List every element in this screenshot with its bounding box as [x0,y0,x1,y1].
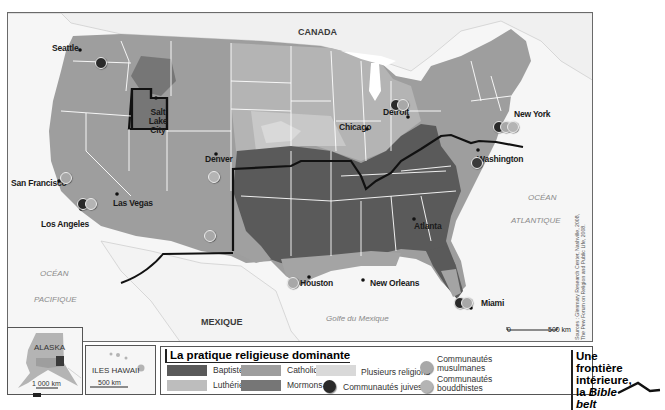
scale-zero: 0 [507,326,511,333]
dot-communautes-musulmanes [420,361,433,374]
legend-label-mormons: Mormons [287,380,322,390]
us-religion-map: CANADA MEXIQUE OCÉAN PACIFIQUE OCÉAN ATL… [7,12,593,342]
legend-title: La pratique religieuse dominante [165,349,350,363]
hawaii-label: ILES HAWAII [92,366,139,375]
legend-label-communautes-bouddhistes: Communautés bouddhistes [437,375,492,393]
swatch-baptistes [167,365,207,376]
bible-belt-line-icon [616,379,665,395]
swatch-lutheriens [167,380,207,391]
legend-label-communautes-musulmanes: Communautés musulmanes [437,355,492,373]
swatch-catholiques [241,365,281,376]
swatch-plusieurs-religions [316,365,356,376]
scale-bar [8,13,593,342]
alaska-label: ALASKA [34,343,65,352]
sources-text: Sources : Glenmary Research Center, Nash… [574,214,586,340]
alaska-inset: ALASKA 1 000 km [7,327,83,395]
alaska-scale: 1 000 km [32,380,61,387]
alaska-marker [33,393,41,397]
legend-label-communautes-juives: Communautés juives [343,382,422,392]
swatch-mormons [241,380,281,391]
hawaii-inset: ILES HAWAII 500 km [85,345,156,395]
dot-communautes-bouddhistes [420,380,433,393]
dot-communautes-juives [323,380,336,393]
scale-label: 500 km [548,326,571,333]
legend: La pratique religieuse dominante Baptist… [160,346,593,395]
hawaii-scale: 500 km [98,379,121,386]
